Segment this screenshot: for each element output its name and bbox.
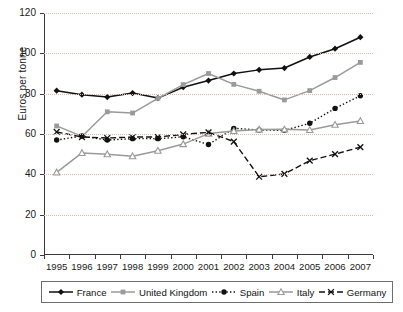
y-tick-label: 120 xyxy=(0,7,36,18)
legend-swatch-united-kingdom xyxy=(110,286,136,298)
legend-label: Germany xyxy=(347,287,386,298)
y-tick-label: 60 xyxy=(0,128,36,139)
x-tick-mark xyxy=(44,255,45,259)
chart-legend: France United Kingdom Spain Italy German… xyxy=(41,281,393,303)
x-tick-mark xyxy=(120,255,121,259)
x-tick-mark xyxy=(246,255,247,259)
data-point-diamond xyxy=(58,289,64,295)
legend-label: Spain xyxy=(240,287,265,298)
grid-line xyxy=(44,13,373,14)
legend-item[interactable]: France xyxy=(48,286,107,298)
legend-swatch-germany xyxy=(318,286,344,298)
y-tick-mark xyxy=(40,174,44,175)
x-tick-mark xyxy=(69,255,70,259)
legend-label: France xyxy=(77,287,107,298)
legend-item[interactable]: United Kingdom xyxy=(110,286,207,298)
x-tick-mark xyxy=(322,255,323,259)
y-tick-label: 40 xyxy=(0,168,36,179)
x-tick-mark xyxy=(221,255,222,259)
grid-line xyxy=(44,174,373,175)
x-tick-mark xyxy=(171,255,172,259)
legend-item[interactable]: Spain xyxy=(211,286,265,298)
y-tick-mark xyxy=(40,215,44,216)
y-tick-mark xyxy=(40,13,44,14)
legend-swatch-spain xyxy=(211,286,237,298)
grid-layer xyxy=(44,13,373,255)
x-tick-mark xyxy=(272,255,273,259)
y-tick-label: 100 xyxy=(0,47,36,58)
legend-item[interactable]: Germany xyxy=(318,286,386,298)
x-tick-mark xyxy=(373,255,374,259)
data-point-circle xyxy=(221,289,226,294)
legend-label: Italy xyxy=(297,287,315,298)
y-tick-label: 20 xyxy=(0,209,36,220)
x-tick-mark xyxy=(297,255,298,259)
grid-line xyxy=(44,134,373,135)
y-tick-mark xyxy=(40,94,44,95)
legend-label: United Kingdom xyxy=(139,287,207,298)
data-point-square xyxy=(121,290,126,295)
y-axis-title: Euros per tonne xyxy=(17,24,28,144)
x-tick-mark xyxy=(196,255,197,259)
y-tick-label: 80 xyxy=(0,88,36,99)
x-tick-mark xyxy=(95,255,96,259)
grid-line xyxy=(44,94,373,95)
legend-swatch-italy xyxy=(268,286,294,298)
plot-area xyxy=(44,13,373,255)
grid-line xyxy=(44,215,373,216)
x-tick-mark xyxy=(348,255,349,259)
line-chart: Euros per tonne 020406080100120 19951996… xyxy=(0,0,403,312)
grid-line xyxy=(44,53,373,54)
y-tick-mark xyxy=(40,134,44,135)
legend-item[interactable]: Italy xyxy=(268,286,315,298)
x-tick-label: 2007 xyxy=(340,261,380,272)
y-tick-label: 0 xyxy=(0,249,36,260)
y-tick-mark xyxy=(40,53,44,54)
legend-swatch-france xyxy=(48,286,74,298)
x-tick-mark xyxy=(145,255,146,259)
